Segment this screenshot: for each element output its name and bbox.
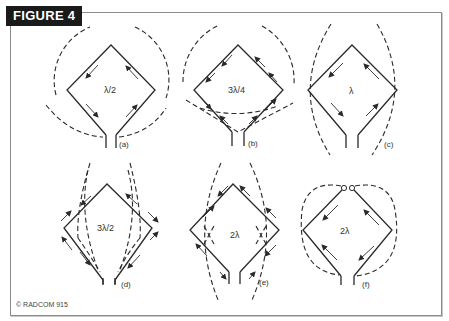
loop-length-e: 2λ	[230, 230, 240, 240]
loop-length-d: 3λ/2	[97, 223, 114, 233]
loop-antenna-diagrams: λ/2 (a) 3λ/4 (b) λ (c)	[0, 0, 449, 321]
panel-label-d: (d)	[121, 280, 131, 289]
panel-c: λ (c)	[308, 24, 397, 155]
panel-label-a: (a)	[119, 140, 129, 149]
copyright-credit: © RADCOM 915	[16, 301, 68, 308]
loop-length-b: 3λ/4	[228, 85, 245, 95]
panel-label-b: (b)	[248, 139, 258, 148]
loop-length-f: 2λ	[340, 226, 350, 236]
loop-length-c: λ	[349, 86, 354, 96]
panel-label-f: (f)	[362, 280, 370, 289]
panel-label-c: (c)	[384, 140, 394, 149]
panel-d: 3λ/2 (d)	[61, 163, 158, 289]
panel-b: 3λ/4 (b)	[183, 25, 294, 148]
panel-label-e: (e)	[259, 278, 269, 287]
panel-f: 2λ (f)	[301, 185, 396, 289]
panel-a: λ/2 (a)	[46, 27, 169, 149]
loop-length-a: λ/2	[104, 85, 116, 95]
panel-e: 2λ (e)	[190, 163, 279, 300]
